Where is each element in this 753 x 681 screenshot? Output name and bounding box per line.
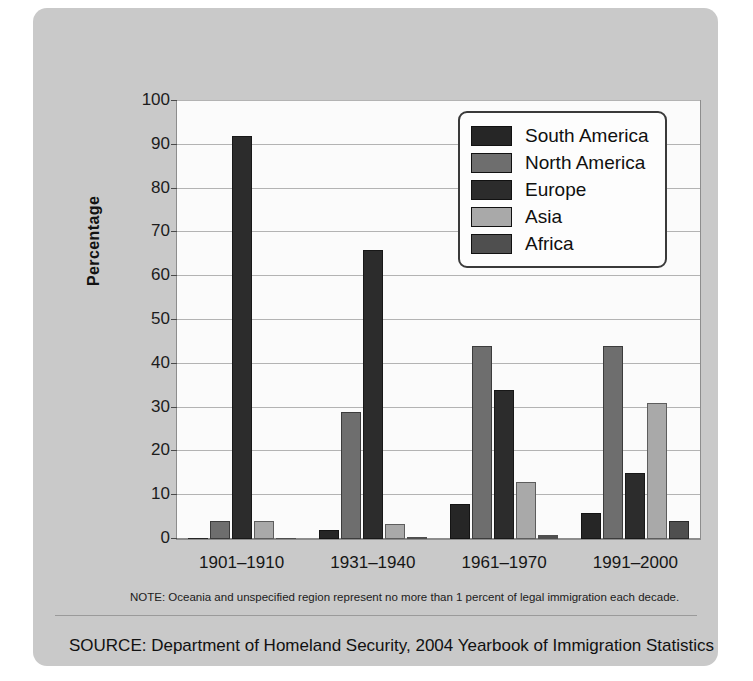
y-axis-tick-label: 70 xyxy=(151,221,170,241)
legend-item: North America xyxy=(471,149,649,176)
y-axis-tick-label: 80 xyxy=(151,177,170,197)
x-axis-tick-label: 1901–1910 xyxy=(199,553,284,573)
y-axis-tick-label: 30 xyxy=(151,396,170,416)
legend-label: South America xyxy=(525,125,649,147)
chart-source: SOURCE: Department of Homeland Security,… xyxy=(69,636,714,656)
bar xyxy=(581,513,601,539)
bar xyxy=(603,346,623,539)
y-axis-tick-label: 20 xyxy=(151,440,170,460)
bar xyxy=(188,538,208,539)
bar xyxy=(407,537,427,539)
bar xyxy=(669,521,689,539)
y-axis-tick-label: 40 xyxy=(151,352,170,372)
bar-group xyxy=(187,101,297,539)
bar xyxy=(625,473,645,539)
legend-color-swatch xyxy=(471,126,512,146)
legend-color-swatch xyxy=(471,207,512,227)
bar xyxy=(319,530,339,539)
bar xyxy=(341,412,361,539)
bar xyxy=(450,504,470,539)
legend-label: Africa xyxy=(525,233,574,255)
bar xyxy=(363,250,383,539)
x-axis-tick-label: 1931–1940 xyxy=(330,553,415,573)
bar xyxy=(385,524,405,539)
legend-item: Asia xyxy=(471,203,649,230)
legend-label: North America xyxy=(525,152,645,174)
bar xyxy=(276,538,296,539)
y-axis-title: Percentage xyxy=(85,196,103,286)
bar-group xyxy=(318,101,428,539)
bar xyxy=(210,521,230,539)
legend-color-swatch xyxy=(471,180,512,200)
x-axis-tick-label: 1991–2000 xyxy=(593,553,678,573)
bar xyxy=(254,521,274,539)
bar xyxy=(232,136,252,539)
legend-label: Europe xyxy=(525,179,586,201)
y-axis-tick-label: 60 xyxy=(151,265,170,285)
y-axis-tick-label: 10 xyxy=(151,484,170,504)
y-axis-tick-label: 0 xyxy=(161,528,170,548)
chart-legend: South AmericaNorth AmericaEuropeAsiaAfri… xyxy=(458,111,667,268)
source-divider xyxy=(55,615,697,616)
x-axis-tick-labels: 1901–19101931–19401961–19701991–2000 xyxy=(176,553,701,573)
legend-color-swatch xyxy=(471,153,512,173)
bar xyxy=(494,390,514,539)
legend-item: Europe xyxy=(471,176,649,203)
y-axis-tick-label: 90 xyxy=(151,133,170,153)
legend-item: Africa xyxy=(471,230,649,257)
x-axis-tick-label: 1961–1970 xyxy=(462,553,547,573)
legend-color-swatch xyxy=(471,234,512,254)
bar xyxy=(647,403,667,539)
legend-label: Asia xyxy=(525,206,562,228)
y-axis-tick-label: 50 xyxy=(151,309,170,329)
bar xyxy=(538,535,558,539)
chart-note: NOTE: Oceania and unspecified region rep… xyxy=(130,591,690,603)
bar xyxy=(472,346,492,539)
legend-item: South America xyxy=(471,122,649,149)
y-axis-tick-label: 100 xyxy=(142,90,170,110)
chart-figure-panel: Percentage 0102030405060708090100 1901–1… xyxy=(33,8,718,666)
bar xyxy=(516,482,536,539)
